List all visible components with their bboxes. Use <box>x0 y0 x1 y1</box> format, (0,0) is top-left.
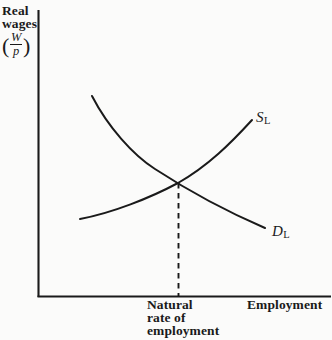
supply-curve-letter: S <box>256 109 264 125</box>
supply-curve-subscript: L <box>264 115 270 126</box>
natural-rate-caption: Natural rate of employment <box>147 298 219 338</box>
x-axis-label: Employment <box>247 298 322 311</box>
natural-rate-caption-line3: employment <box>147 324 219 337</box>
demand-curve-letter: D <box>272 223 283 239</box>
supply-curve-label: SL <box>256 110 270 127</box>
labour-market-diagram: Real wages (Wp) SL DL Natural rate of em… <box>0 0 332 340</box>
demand-curve-subscript: L <box>283 229 289 240</box>
labour-supply-curve <box>80 120 252 219</box>
demand-curve-label: DL <box>272 224 290 241</box>
plot-canvas <box>0 0 332 340</box>
